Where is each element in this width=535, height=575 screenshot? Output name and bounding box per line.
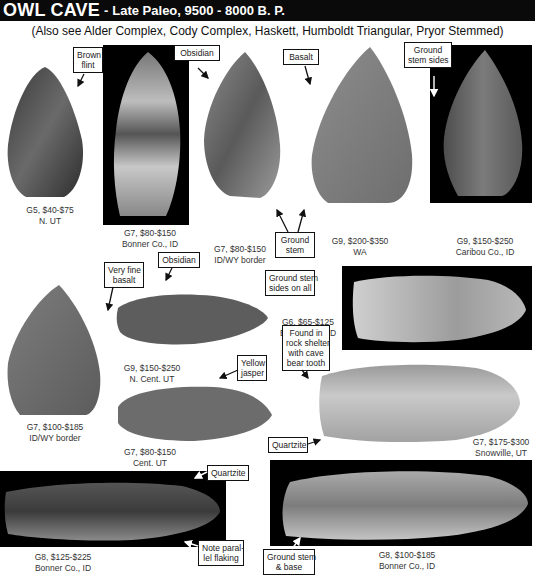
point-image-4 — [308, 45, 416, 205]
label-quartzite-2: Quartzite — [207, 465, 249, 481]
point-image-8 — [348, 272, 528, 346]
specimen-caption-9: G7, $80-$150Cent. UT — [110, 447, 190, 469]
arrow-very-fine-basalt — [108, 287, 113, 310]
specimen-caption-11: G8, $125-$225Bonner Co., ID — [28, 552, 98, 574]
point-image-12 — [278, 466, 530, 542]
arrow-ground-stem-right — [298, 210, 304, 232]
point-image-10 — [316, 362, 522, 444]
specimen-caption-2: G7, $80-$150Bonner Co., ID — [110, 228, 190, 250]
specimen-caption-4: G9, $200-$350WA — [320, 236, 400, 258]
label-note-parallel-flaking: Note paral-lel flaking — [198, 540, 244, 566]
specimen-caption-10: G7, $175-$300Snowville, UT — [470, 437, 532, 459]
arrow-rock-shelter — [302, 370, 308, 378]
arrow-ground-stem-left — [277, 210, 288, 232]
specimen-caption-5: G9, $150-$250Caribou Co., ID — [445, 236, 525, 258]
label-very-fine-basalt: Very finebasalt — [104, 262, 144, 288]
label-quartzite-1: Quartzite — [268, 437, 308, 453]
specimen-caption-12: G8, $100-$185Bonner Co., ID — [372, 550, 442, 572]
label-found-in-rock-shelter: Found inrock shelterwith cavebear tooth — [282, 325, 330, 371]
label-ground-stem-base: Ground stem& base — [263, 549, 315, 575]
arrow-obsidian-2 — [166, 268, 172, 280]
specimen-caption-3: G7, $80-$150ID/WY border — [205, 244, 275, 266]
point-image-6 — [4, 283, 104, 418]
point-image-7 — [114, 288, 270, 346]
specimen-caption-1: G5, $40-$75N. UT — [20, 205, 80, 227]
point-image-11 — [2, 478, 222, 542]
title-bar: OWL CAVE - Late Paleo, 9500 - 8000 B. P. — [0, 0, 535, 21]
title-separator: - — [104, 3, 108, 18]
label-obsidian-2: Obsidian — [158, 252, 200, 268]
specimen-caption-7: G9, $150-$250N. Cent. UT — [112, 363, 192, 385]
point-image-9 — [114, 383, 274, 443]
see-also-note: (Also see Alder Complex, Cody Complex, H… — [0, 24, 535, 38]
point-image-2 — [108, 50, 184, 220]
label-ground-stem-sides: Groundstem sides — [404, 42, 452, 68]
label-ground-stem-sides-all: Ground stemsides on all — [265, 270, 315, 296]
label-yellow-jasper: Yellowjasper — [237, 355, 267, 381]
point-image-1 — [4, 65, 86, 200]
arrow-yellow-jasper — [220, 370, 238, 378]
page-title: OWL CAVE — [3, 0, 100, 21]
specimen-caption-6: G7, $100-$185ID/WY border — [20, 422, 90, 444]
label-basalt: Basalt — [283, 49, 319, 65]
point-image-5 — [440, 48, 525, 198]
label-ground-stem: Groundstem — [275, 232, 315, 258]
point-image-3 — [200, 50, 282, 200]
label-obsidian-1: Obsidian — [174, 45, 220, 61]
label-brown-flint: Brownflint — [73, 47, 103, 73]
page-subtitle: Late Paleo, 9500 - 8000 B. P. — [112, 3, 284, 18]
